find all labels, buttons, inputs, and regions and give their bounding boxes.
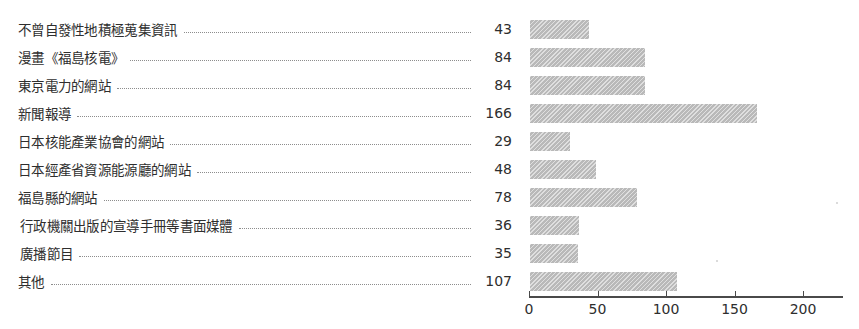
- bar-row: [530, 127, 850, 155]
- list-item: 漫畫《福島核電》 84: [0, 43, 519, 71]
- x-axis-tick: [735, 291, 736, 297]
- bar-row: [530, 71, 850, 99]
- category-value-list: 不曾自發性地積極蒐集資訊 43 漫畫《福島核電》 84 東京電力的網站 84 新…: [0, 15, 519, 295]
- category-label: 日本經產省資源能源廳的網站: [0, 159, 191, 179]
- bar: [530, 160, 596, 179]
- category-label: 其他: [0, 271, 45, 291]
- leader-dots: [239, 227, 471, 229]
- bar-row: [530, 239, 850, 267]
- category-value: 166: [476, 105, 519, 121]
- bar-row: [530, 15, 850, 43]
- bar: [530, 20, 589, 39]
- category-label: 東京電力的網站: [0, 75, 111, 95]
- x-axis-tick-label: 200: [790, 301, 817, 317]
- category-value: 84: [476, 49, 519, 65]
- leader-dots: [170, 143, 471, 145]
- list-item: 日本核能產業協會的網站 29: [0, 127, 519, 155]
- category-value: 48: [476, 161, 519, 177]
- list-item: 日本經產省資源能源廳的網站 48: [0, 155, 519, 183]
- bar: [530, 216, 579, 235]
- bar: [530, 188, 637, 207]
- paper-speck: [716, 260, 718, 262]
- leader-dots: [77, 115, 471, 117]
- leader-dots: [117, 87, 471, 89]
- list-item: 其他 107: [0, 267, 519, 295]
- leader-dots: [197, 171, 471, 173]
- bar-row: [530, 99, 850, 127]
- leader-dots: [51, 283, 471, 285]
- list-item: 福島縣的網站 78: [0, 183, 519, 211]
- x-axis-tick-label: 50: [589, 301, 607, 317]
- list-item: 行政機關出版的宣導手冊等書面媒體 36: [0, 211, 519, 239]
- bar-row: [530, 267, 850, 295]
- list-item: 不曾自發性地積極蒐集資訊 43: [0, 15, 519, 43]
- x-axis-tick: [598, 291, 599, 297]
- bar-row: [530, 183, 850, 211]
- x-axis: [529, 296, 843, 298]
- category-value: 36: [476, 217, 519, 233]
- category-value: 107: [476, 273, 519, 289]
- x-axis-tick: [803, 291, 804, 297]
- leader-dots: [79, 255, 471, 257]
- category-label: 廣播節目: [0, 243, 73, 263]
- category-label: 新聞報導: [0, 103, 71, 123]
- bar-row: [530, 43, 850, 71]
- bar: [530, 76, 645, 95]
- category-value: 35: [476, 245, 519, 261]
- bar: [530, 272, 677, 291]
- category-label: 福島縣的網站: [0, 187, 98, 207]
- list-item: 東京電力的網站 84: [0, 71, 519, 99]
- bar-series: [530, 15, 850, 295]
- list-item: 廣播節目 35: [0, 239, 519, 267]
- category-label: 漫畫《福島核電》: [0, 47, 124, 67]
- category-label: 行政機關出版的宣導手冊等書面媒體: [0, 215, 233, 235]
- bar-chart-figure: 不曾自發性地積極蒐集資訊 43 漫畫《福島核電》 84 東京電力的網站 84 新…: [0, 0, 859, 329]
- category-value: 43: [476, 21, 519, 37]
- leader-dots: [184, 31, 471, 33]
- x-axis-tick: [529, 291, 530, 297]
- bar: [530, 104, 757, 123]
- category-value: 29: [476, 133, 519, 149]
- x-axis-tick: [666, 291, 667, 297]
- list-item: 新聞報導 166: [0, 99, 519, 127]
- x-axis-tick-label: 100: [653, 301, 680, 317]
- leader-dots: [104, 199, 471, 201]
- category-value: 84: [476, 77, 519, 93]
- x-axis-tick-label: 0: [525, 301, 534, 317]
- x-axis-tick-label: 150: [721, 301, 748, 317]
- bar-row: [530, 155, 850, 183]
- category-value: 78: [476, 189, 519, 205]
- paper-speck: [836, 202, 838, 204]
- category-label: 不曾自發性地積極蒐集資訊: [0, 19, 178, 39]
- bar-row: [530, 211, 850, 239]
- leader-dots: [130, 59, 471, 61]
- bar: [530, 132, 570, 151]
- bar: [530, 48, 645, 67]
- category-label: 日本核能產業協會的網站: [0, 131, 164, 151]
- bar: [530, 244, 578, 263]
